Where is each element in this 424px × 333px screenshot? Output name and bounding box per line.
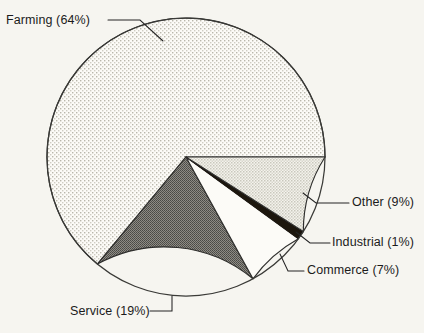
slice-label-commerce: Commerce (7%) (307, 264, 399, 277)
leader-line-service (150, 296, 172, 311)
slice-label-industrial: Industrial (1%) (332, 236, 414, 249)
pie-chart-figure: Farming (64%) Service (19%) Commerce (7%… (0, 0, 424, 333)
slice-label-service: Service (19%) (70, 305, 150, 318)
pie-chart-canvas (0, 0, 424, 333)
leader-line-other (303, 193, 349, 203)
slice-label-farming: Farming (64%) (6, 14, 90, 27)
slice-label-other: Other (9%) (352, 196, 414, 209)
